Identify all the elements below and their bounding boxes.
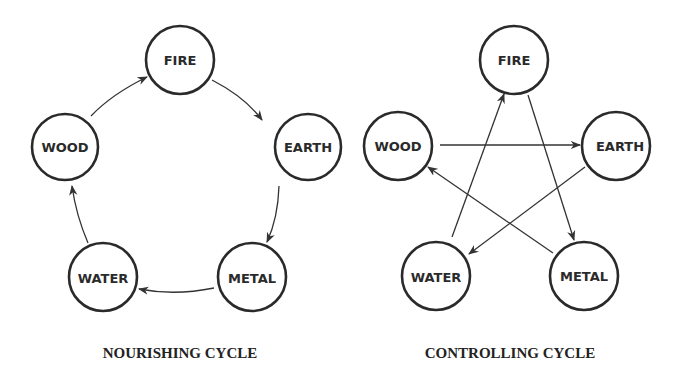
node-wood: WOOD — [32, 114, 98, 180]
node-label: WATER — [78, 271, 129, 286]
nourishing-cycle-nodes: FIRE EARTH METAL WATER WOOD — [32, 26, 341, 311]
node-wood: WOOD — [364, 112, 432, 180]
node-water: WATER — [402, 242, 470, 310]
arrow-metal-to-wood — [428, 167, 553, 253]
arrow-fire-to-earth — [212, 80, 262, 120]
node-water: WATER — [69, 243, 137, 311]
node-label: METAL — [228, 271, 276, 286]
node-fire: FIRE — [146, 26, 214, 94]
arrow-fire-to-metal — [528, 95, 574, 240]
node-label: EARTH — [284, 140, 332, 155]
arrow-earth-to-metal — [267, 186, 279, 242]
node-label: FIRE — [164, 53, 197, 68]
controlling-cycle-nodes: FIRE EARTH METAL WATER WOOD — [364, 26, 650, 310]
five-elements-figure: FIRE EARTH METAL WATER WOOD FIRE EARTH M… — [0, 0, 679, 371]
node-earth: EARTH — [582, 112, 650, 180]
caption-controlling-cycle: CONTROLLING CYCLE — [425, 345, 595, 361]
arrow-wood-to-fire — [91, 77, 147, 116]
node-label: METAL — [560, 269, 608, 284]
node-label: EARTH — [596, 139, 644, 154]
node-label: WATER — [411, 270, 462, 285]
node-earth: EARTH — [275, 114, 341, 180]
arrow-earth-to-water — [469, 167, 585, 254]
arrow-water-to-fire — [452, 94, 504, 237]
arrow-water-to-wood — [72, 186, 88, 243]
node-label: FIRE — [498, 53, 531, 68]
node-metal: METAL — [550, 242, 618, 310]
node-label: WOOD — [374, 139, 421, 154]
controlling-cycle-arrows — [428, 94, 585, 254]
node-fire: FIRE — [480, 26, 548, 94]
node-metal: METAL — [218, 243, 286, 311]
caption-nourishing-cycle: NOURISHING CYCLE — [103, 345, 258, 361]
arrow-metal-to-water — [139, 288, 214, 292]
node-label: WOOD — [41, 140, 88, 155]
